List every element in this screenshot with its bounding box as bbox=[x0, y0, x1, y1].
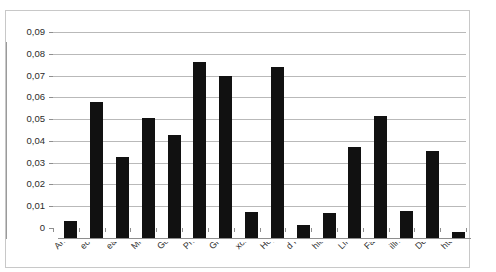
bar bbox=[348, 147, 361, 238]
x-axis-tick-mark bbox=[156, 228, 157, 232]
y-axis-tick-label: 0,06 bbox=[6, 92, 45, 101]
x-axis-tick-mark bbox=[234, 228, 235, 232]
x-axis-tick-mark bbox=[337, 228, 338, 232]
x-axis-category-label: Death bbox=[413, 242, 437, 251]
x-axis-line bbox=[58, 238, 471, 239]
y-axis-tick-label: 0,09 bbox=[6, 27, 45, 36]
bar-series bbox=[58, 42, 471, 238]
y-axis-tick-mark bbox=[49, 119, 53, 120]
x-axis-category-label: illness bbox=[387, 242, 412, 251]
x-axis-tick-mark bbox=[182, 228, 183, 232]
y-axis-tick-mark bbox=[49, 184, 53, 185]
y-axis-line bbox=[6, 42, 7, 239]
y-axis-tick-label: 0,04 bbox=[6, 136, 45, 145]
x-axis-tick-mark bbox=[389, 228, 390, 232]
x-axis-tick-mark bbox=[130, 228, 131, 232]
bar bbox=[400, 211, 413, 238]
x-axis-tick-mark bbox=[311, 228, 312, 232]
x-axis-category-label: Prayer bbox=[181, 242, 207, 251]
y-axis-tick-mark bbox=[49, 76, 53, 77]
x-axis-category-label: Anger bbox=[52, 242, 76, 251]
x-axis-category-label: ection bbox=[78, 242, 102, 251]
x-axis-category-label: Hope bbox=[258, 242, 281, 251]
x-axis-category-label: ealistic bbox=[104, 242, 131, 251]
x-axis-category-label: Miracle bbox=[129, 242, 157, 251]
bar bbox=[271, 67, 284, 238]
bar bbox=[374, 116, 387, 238]
bar bbox=[193, 62, 206, 238]
x-axis-tick-mark bbox=[466, 228, 467, 232]
y-axis-tick-label: 0,03 bbox=[6, 158, 45, 167]
y-axis-tick-label: 0 bbox=[6, 223, 45, 232]
bar bbox=[297, 225, 310, 238]
x-axis-tick-mark bbox=[440, 228, 441, 232]
x-axis-category-label: Life bbox=[336, 242, 354, 251]
x-axis-category-label: Faith bbox=[362, 242, 384, 251]
bar bbox=[168, 135, 181, 238]
gridline bbox=[53, 32, 466, 33]
bar bbox=[90, 102, 103, 238]
bar bbox=[64, 221, 77, 238]
bar bbox=[323, 213, 336, 238]
bar bbox=[142, 118, 155, 238]
bar bbox=[426, 151, 439, 238]
x-axis-tick-mark bbox=[260, 228, 261, 232]
x-axis-tick-mark bbox=[285, 228, 286, 232]
y-axis-tick-label: 0,01 bbox=[6, 201, 45, 210]
x-axis-tick-mark bbox=[53, 228, 54, 232]
x-axis-tick-mark bbox=[414, 228, 415, 232]
y-axis-tick-mark bbox=[49, 54, 53, 55]
x-axis-category-label: d Faith bbox=[284, 242, 311, 251]
y-axis-tick-label: 0,08 bbox=[6, 49, 45, 58]
y-axis-tick-label: 0,05 bbox=[6, 114, 45, 123]
y-axis-tick-mark bbox=[49, 141, 53, 142]
x-axis-category-label: God bbox=[155, 242, 174, 251]
y-axis-tick-mark bbox=[49, 163, 53, 164]
x-axis-category-label: Grief bbox=[207, 242, 228, 251]
y-axis-tick-label: 0,07 bbox=[6, 71, 45, 80]
bar bbox=[116, 157, 129, 238]
y-axis-tick-mark bbox=[49, 97, 53, 98]
chart-frame: 0,090,080,070,060,050,040,030,020,010 An… bbox=[5, 10, 470, 268]
bar bbox=[219, 76, 232, 238]
y-axis-tick-mark bbox=[49, 206, 53, 207]
x-axis-tick-mark bbox=[105, 228, 106, 232]
x-axis-category-label: hioned bbox=[310, 242, 337, 251]
x-axis-category-label: htening bbox=[439, 242, 467, 251]
x-axis-labels: AngerectionealisticMiracleGodPrayerGrief… bbox=[6, 242, 496, 272]
x-axis-tick-mark bbox=[79, 228, 80, 232]
y-axis-tick-mark bbox=[49, 32, 53, 33]
x-axis-tick-mark bbox=[208, 228, 209, 232]
y-axis-tick-label: 0,02 bbox=[6, 179, 45, 188]
x-axis-category-label: xciting bbox=[233, 242, 259, 251]
bar bbox=[245, 212, 258, 238]
bar bbox=[452, 232, 465, 238]
x-axis-tick-mark bbox=[363, 228, 364, 232]
